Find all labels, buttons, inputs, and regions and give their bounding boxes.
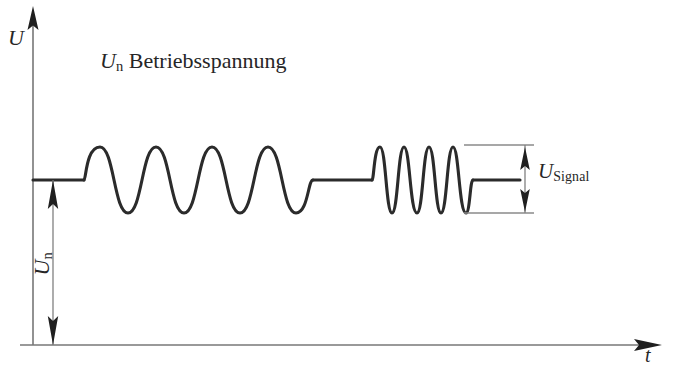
voltage-signal-diagram: U t Un Betriebsspannung Un USignal — [0, 0, 690, 379]
usignal-label-symbol: U — [538, 159, 553, 183]
y-axis-label-text: U — [8, 25, 24, 50]
trace-segment-oscillation-1 — [84, 147, 313, 213]
x-axis-label-text: t — [645, 344, 651, 366]
trace-segment-oscillation-2 — [372, 147, 473, 213]
caption-subscript: n — [116, 58, 123, 74]
caption-symbol: U — [100, 48, 116, 73]
un-dimension-label: Un — [31, 252, 55, 275]
un-label-subscript: n — [39, 252, 55, 259]
x-axis-label: t — [645, 345, 651, 365]
y-axis-label: U — [8, 27, 24, 49]
caption-text: Betriebsspannung — [129, 48, 287, 73]
un-label-symbol: U — [29, 260, 54, 276]
signal-trace-group — [33, 147, 520, 213]
operating-voltage-caption: Un Betriebsspannung — [100, 50, 286, 74]
usignal-dimension-label: USignal — [538, 161, 589, 184]
usignal-label-subscript: Signal — [553, 169, 589, 184]
